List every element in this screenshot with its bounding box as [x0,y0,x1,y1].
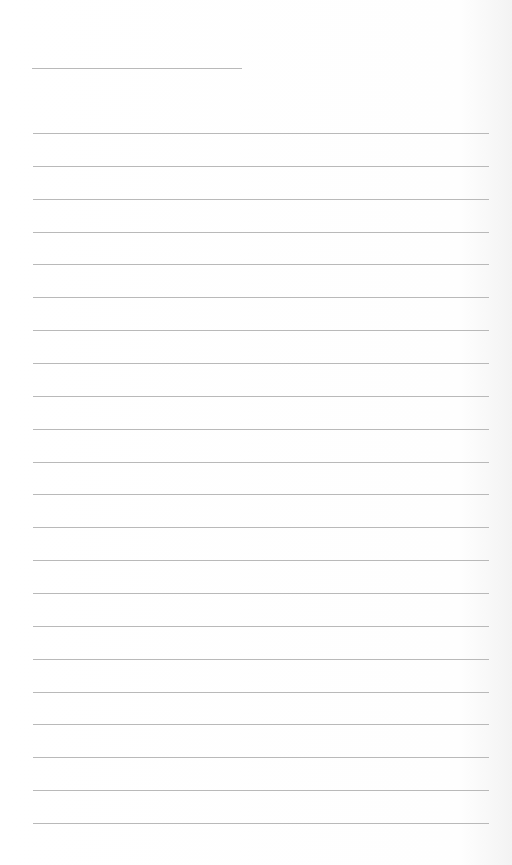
ruled-line [33,560,489,561]
ruled-line [33,593,489,594]
ruled-line [33,297,489,298]
ruled-line [33,462,489,463]
ruled-line [33,133,489,134]
ruled-line [33,429,489,430]
ruled-line [33,494,489,495]
ruled-line [33,330,489,331]
ruled-line [33,527,489,528]
ruled-line [33,396,489,397]
ruled-line [33,166,489,167]
ruled-line [33,659,489,660]
ruled-line [33,264,489,265]
ruled-line [33,823,489,824]
ruled-line [33,626,489,627]
ruled-line [33,232,489,233]
header-name-line [32,68,242,69]
ruled-line [33,199,489,200]
ruled-line [33,757,489,758]
ruled-line [33,363,489,364]
lined-paper-page [0,0,512,865]
ruled-line [33,724,489,725]
ruled-line [33,692,489,693]
ruled-line [33,790,489,791]
